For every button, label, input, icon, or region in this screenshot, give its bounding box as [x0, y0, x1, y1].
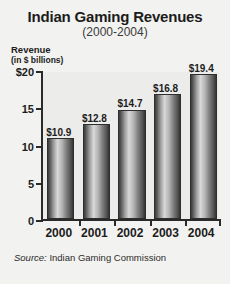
y-axis-tick — [36, 183, 43, 185]
bar-value-label: $10.9 — [46, 127, 71, 138]
bar — [83, 124, 110, 219]
bar-value-label: $19.4 — [189, 63, 214, 74]
y-axis-tick-label: $20 — [16, 66, 34, 78]
y-axis-tick — [36, 71, 43, 73]
y-axis-tick — [36, 220, 43, 222]
y-axis-tick — [36, 108, 43, 110]
y-axis-tick-label: 5 — [28, 178, 34, 190]
bar — [118, 110, 145, 220]
y-axis-label: Revenue — [11, 44, 51, 55]
plot-area: 051015$20 — [41, 72, 219, 221]
y-axis-units-label: (in $ billions) — [11, 55, 63, 65]
source-note: Source: Indian Gaming Commission — [14, 252, 166, 263]
y-axis-tick-label: 15 — [22, 103, 34, 115]
x-axis-tick-label: 2003 — [152, 226, 179, 240]
x-axis-tick — [150, 219, 152, 226]
bar-value-label: $12.8 — [82, 113, 107, 124]
x-axis-tick — [185, 219, 187, 226]
x-axis-tick-label: 2000 — [45, 226, 72, 240]
x-axis-tick — [79, 219, 81, 226]
y-axis-tick — [36, 146, 43, 148]
x-axis-tick-label: 2002 — [117, 226, 144, 240]
bar — [154, 94, 181, 219]
bar-value-label: $14.7 — [117, 98, 142, 109]
chart-title: Indian Gaming Revenues — [0, 8, 230, 25]
bar-value-label: $16.8 — [153, 83, 178, 94]
x-axis-tick-label: 2004 — [188, 226, 215, 240]
x-axis-tick-label: 2001 — [81, 226, 108, 240]
chart-subtitle: (2000-2004) — [0, 25, 230, 39]
x-axis-tick — [114, 219, 116, 226]
y-axis-tick-label: 0 — [28, 215, 34, 227]
bar — [190, 74, 217, 219]
bar — [47, 138, 74, 219]
x-axis-tick — [219, 219, 221, 226]
source-label: Source: — [14, 252, 47, 263]
chart-figure: Indian Gaming Revenues (2000-2004) Reven… — [0, 0, 230, 284]
source-text: Indian Gaming Commission — [49, 252, 166, 263]
y-axis-tick-label: 10 — [22, 141, 34, 153]
